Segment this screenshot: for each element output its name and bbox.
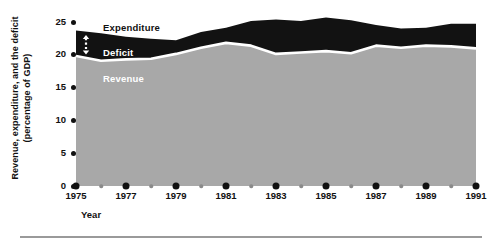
y-tick-label-10: 10 <box>55 114 66 126</box>
series-label-deficit: Deficit <box>103 47 133 58</box>
y-axis-title-line-2: (percentage of GDP) <box>21 16 33 179</box>
x-tick-dot-1990 <box>449 184 453 188</box>
x-tick-label-1975: 1975 <box>65 190 86 201</box>
x-tick-label-1991: 1991 <box>465 190 486 201</box>
x-tick-dot-1982 <box>249 184 253 188</box>
revenue-area-series <box>76 43 476 186</box>
footer-rule <box>20 236 482 238</box>
series-label-expenditure: Expenditure <box>103 22 160 33</box>
x-tick-dot-1979 <box>173 183 180 190</box>
x-tick-label-1987: 1987 <box>365 190 386 201</box>
plot-area <box>76 14 476 186</box>
y-tick-25: 25 <box>40 16 76 28</box>
x-axis-title: Year <box>81 209 101 220</box>
x-tick-dot-1986 <box>349 184 353 188</box>
x-tick-dot-1988 <box>399 184 403 188</box>
x-tick-label-1985: 1985 <box>315 190 336 201</box>
x-tick-dot-1983 <box>273 183 280 190</box>
x-tick-label-1981: 1981 <box>215 190 236 201</box>
y-tick-label-5: 5 <box>61 147 66 159</box>
figure-area-chart: Revenue, expenditure, and the deficit (p… <box>0 0 489 240</box>
y-axis-title-line-1: Revenue, expenditure, and the deficit <box>10 16 22 179</box>
y-tick-20: 20 <box>40 48 76 60</box>
y-tick-label-25: 25 <box>55 16 66 28</box>
chart-svg <box>76 14 476 186</box>
x-tick-dot-1978 <box>149 184 153 188</box>
y-tick-label-20: 20 <box>55 48 66 60</box>
x-tick-dot-1981 <box>223 183 230 190</box>
x-tick-label-1977: 1977 <box>115 190 136 201</box>
x-tick-label-1989: 1989 <box>415 190 436 201</box>
x-tick-dot-1984 <box>299 184 303 188</box>
x-tick-dot-1985 <box>323 183 330 190</box>
x-tick-dot-1977 <box>123 183 130 190</box>
x-tick-dot-1987 <box>373 183 380 190</box>
y-tick-15: 15 <box>40 81 76 93</box>
x-tick-label-1979: 1979 <box>165 190 186 201</box>
y-axis-title: Revenue, expenditure, and the deficit (p… <box>0 0 42 195</box>
x-tick-label-1983: 1983 <box>265 190 286 201</box>
y-tick-5: 5 <box>40 147 76 159</box>
x-tick-dot-1989 <box>423 183 430 190</box>
series-label-revenue: Revenue <box>103 73 144 84</box>
x-tick-dot-1976 <box>99 184 103 188</box>
x-tick-dot-1991 <box>473 183 480 190</box>
x-tick-dot-1975 <box>73 183 80 190</box>
y-tick-10: 10 <box>40 114 76 126</box>
x-tick-dot-1980 <box>199 184 203 188</box>
y-tick-label-15: 15 <box>55 81 66 93</box>
